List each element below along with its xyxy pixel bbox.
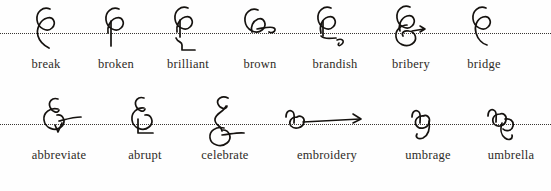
shorthand-glyph-loop-angle-foot <box>108 95 182 147</box>
shorthand-glyph-loop-horizontal-curl <box>226 0 294 55</box>
shorthand-glyph-loop-stem <box>14 0 78 55</box>
shorthand-word-label: brandish <box>297 57 373 71</box>
shorthand-entry-abrupt[interactable]: abrupt <box>108 95 182 191</box>
shorthand-word-label: brown <box>226 57 294 71</box>
shorthand-entry-bribery[interactable]: bribery <box>376 0 446 95</box>
shorthand-entry-bridge[interactable]: bridge <box>450 0 518 95</box>
shorthand-word-label: umbrella <box>472 148 550 162</box>
shorthand-glyph-en-loop-hook-tail <box>472 95 550 149</box>
shorthand-chart: break broken brilliant <box>0 0 551 191</box>
shorthand-entry-celebrate[interactable]: celebrate <box>184 95 266 191</box>
shorthand-glyph-loop-s-tail <box>297 0 373 58</box>
shorthand-word-label: break <box>14 57 78 71</box>
shorthand-entry-brandish[interactable]: brandish <box>297 0 373 95</box>
shorthand-row: break broken brilliant <box>0 0 551 95</box>
shorthand-glyph-loop-descender <box>450 0 518 56</box>
shorthand-glyph-en-loop-long-dash <box>272 95 382 143</box>
shorthand-entry-abbreviate[interactable]: abbreviate <box>14 95 104 191</box>
shorthand-glyph-loop-double-coil <box>376 0 446 58</box>
shorthand-entry-brown[interactable]: brown <box>226 0 294 95</box>
shorthand-entry-brilliant[interactable]: brilliant <box>152 0 224 95</box>
shorthand-entry-break[interactable]: break <box>14 0 78 95</box>
shorthand-word-label: broken <box>81 57 151 71</box>
shorthand-glyph-loop-downstroke <box>81 0 151 55</box>
shorthand-word-label: embroidery <box>272 148 382 162</box>
shorthand-word-label: bridge <box>450 57 518 71</box>
shorthand-entry-umbrella[interactable]: umbrella <box>472 95 550 191</box>
shorthand-glyph-loop-hook-right-angle <box>152 0 224 60</box>
shorthand-word-label: bribery <box>376 57 446 71</box>
shorthand-entry-umbrage[interactable]: umbrage <box>386 95 470 191</box>
shorthand-word-label: brilliant <box>152 57 224 71</box>
shorthand-glyph-en-loop-descender <box>386 95 470 147</box>
shorthand-word-label: abbreviate <box>14 148 104 162</box>
shorthand-entry-broken[interactable]: broken <box>81 0 151 95</box>
shorthand-word-label: celebrate <box>184 148 266 162</box>
shorthand-entry-embroidery[interactable]: embroidery <box>272 95 382 191</box>
shorthand-glyph-tall-curve-over-circle <box>184 95 266 150</box>
shorthand-word-label: umbrage <box>386 148 470 162</box>
shorthand-row: abbreviate abrupt <box>0 95 551 191</box>
shorthand-word-label: abrupt <box>108 148 182 162</box>
shorthand-glyph-loop-check-dash <box>14 95 104 145</box>
